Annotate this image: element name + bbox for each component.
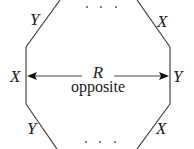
relation-caption: opposite [71, 78, 125, 96]
label-top-right: X [156, 12, 168, 31]
label-bottom-right: X [155, 119, 167, 138]
label-bottom-left: Y [27, 119, 38, 138]
polygon-diagram: Y X X Y Y X R opposite [0, 0, 194, 149]
label-right-vertical: Y [173, 67, 184, 86]
ellipsis-bottom [85, 141, 116, 143]
ellipsis-top [86, 6, 117, 8]
label-top-left: Y [30, 10, 41, 29]
label-left-vertical: X [9, 67, 21, 86]
